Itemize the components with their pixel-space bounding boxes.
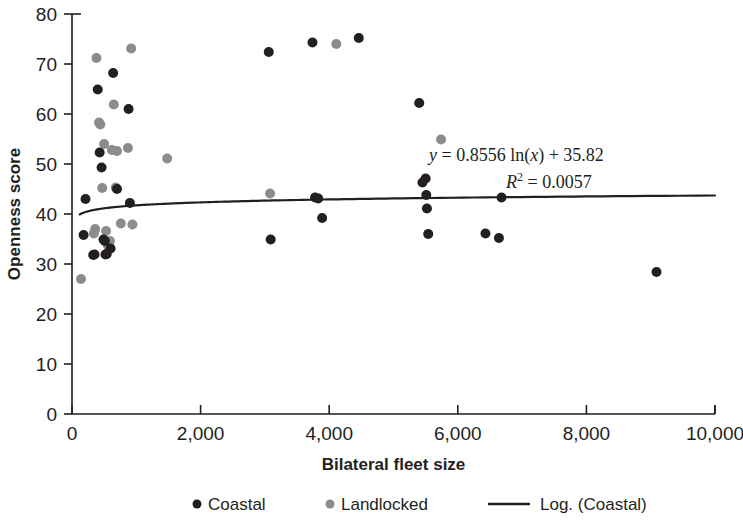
data-point-coastal <box>95 148 105 158</box>
y-axis-title: Openness score <box>5 148 24 280</box>
data-point-coastal <box>112 184 122 194</box>
x-tick-label: 0 <box>67 423 78 444</box>
trendline-equation: y = 0.8556 ln(x) + 35.82 <box>427 145 604 166</box>
data-point-landlocked <box>123 143 133 153</box>
data-point-coastal <box>108 68 118 78</box>
x-tick-label: 2,000 <box>177 423 225 444</box>
legend-label: Coastal <box>208 495 266 514</box>
axes-group <box>72 14 715 414</box>
y-tick-label: 70 <box>36 54 57 75</box>
y-tick-label: 80 <box>36 4 57 25</box>
legend-marker-dot <box>326 500 335 509</box>
y-tick-label: 0 <box>46 404 57 425</box>
trendline-path <box>80 196 715 215</box>
data-point-landlocked <box>109 100 119 110</box>
data-point-landlocked <box>162 154 172 164</box>
trendline <box>80 196 715 215</box>
data-point-coastal <box>90 250 100 260</box>
data-point-coastal <box>494 233 504 243</box>
data-point-coastal <box>421 174 431 184</box>
x-tick-label: 4,000 <box>305 423 353 444</box>
data-point-landlocked <box>436 135 446 145</box>
data-point-coastal <box>422 204 432 214</box>
data-point-coastal <box>317 213 327 223</box>
data-point-coastal <box>307 38 317 48</box>
data-point-coastal <box>651 267 661 277</box>
data-point-landlocked <box>112 146 122 156</box>
data-point-landlocked <box>95 120 105 130</box>
data-point-coastal <box>354 33 364 43</box>
data-point-landlocked <box>97 183 107 193</box>
data-point-coastal <box>264 47 274 57</box>
x-axis-title: Bilateral fleet size <box>322 455 466 474</box>
data-point-landlocked <box>76 274 86 284</box>
data-point-landlocked <box>90 224 100 234</box>
y-axis-ticks: 01020304050607080 <box>36 4 72 425</box>
x-axis-ticks: 02,0004,0006,0008,00010,000 <box>67 405 743 444</box>
legend-marker-dot <box>193 500 202 509</box>
data-point-landlocked <box>126 44 136 54</box>
legend-label: Landlocked <box>341 495 428 514</box>
data-point-landlocked <box>91 53 101 63</box>
data-point-coastal <box>423 229 433 239</box>
data-point-coastal <box>106 244 116 254</box>
data-point-landlocked <box>101 226 111 236</box>
data-point-landlocked <box>127 220 137 230</box>
data-point-coastal <box>480 229 490 239</box>
data-point-coastal <box>97 163 107 173</box>
chart-canvas: 01020304050607080 02,0004,0006,0008,0001… <box>0 0 743 528</box>
x-tick-label: 8,000 <box>563 423 611 444</box>
data-point-coastal <box>79 230 89 240</box>
y-tick-label: 40 <box>36 204 57 225</box>
data-point-coastal <box>414 98 424 108</box>
trendline-r-squared: R2 = 0.0057 <box>505 170 592 192</box>
legend-label: Log. (Coastal) <box>540 495 647 514</box>
data-point-landlocked <box>265 189 275 199</box>
data-point-coastal <box>81 194 91 204</box>
y-tick-label: 20 <box>36 304 57 325</box>
data-point-landlocked <box>116 219 126 229</box>
y-tick-label: 30 <box>36 254 57 275</box>
data-point-coastal <box>266 235 276 245</box>
x-tick-label: 6,000 <box>434 423 482 444</box>
y-tick-label: 50 <box>36 154 57 175</box>
y-tick-label: 10 <box>36 354 57 375</box>
data-point-coastal <box>93 85 103 95</box>
y-tick-label: 60 <box>36 104 57 125</box>
scatter-chart: 01020304050607080 02,0004,0006,0008,0001… <box>0 0 743 528</box>
data-point-coastal <box>124 104 134 114</box>
x-tick-label: 10,000 <box>686 423 743 444</box>
data-point-landlocked <box>331 39 341 49</box>
chart-legend: CoastalLandlockedLog. (Coastal) <box>193 495 647 514</box>
equation-annotation: y = 0.8556 ln(x) + 35.82R2 = 0.0057 <box>427 145 604 192</box>
axis-lines <box>72 14 715 414</box>
series-landlocked-points <box>76 39 446 284</box>
